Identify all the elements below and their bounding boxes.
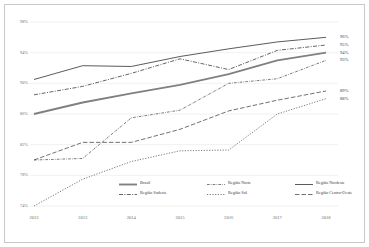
y-axis-tick-label: 94%: [2, 50, 28, 55]
y-axis-tick-label: 74%: [2, 203, 28, 208]
x-axis-tick-label: 2013: [68, 215, 98, 220]
legend-swatch: [206, 192, 226, 197]
series-line: [34, 60, 326, 160]
y-axis-tick-label: 86%: [2, 111, 28, 116]
x-axis-tick-label: 2012: [19, 215, 49, 220]
y-axis-tick-label: 98%: [2, 19, 28, 24]
legend-label: Região Sul: [228, 190, 247, 195]
end-value-label: 94%: [340, 50, 348, 55]
gridlines: [30, 22, 338, 206]
legend-swatch: [294, 192, 314, 197]
x-axis-tick-label: 2015: [165, 215, 195, 220]
y-axis-tick-label: 90%: [2, 80, 28, 85]
end-value-label: 93%: [340, 57, 348, 62]
legend-label: Região Nordeste: [316, 180, 345, 185]
x-axis-tick-label: 2014: [116, 215, 146, 220]
x-axis-tick-label: 2017: [262, 215, 292, 220]
series-line: [34, 91, 326, 160]
end-value-label: 88%: [340, 96, 348, 101]
legend-swatch: [118, 192, 138, 197]
x-axis-tick-label: 2016: [214, 215, 244, 220]
x-axis-tick-label: 2018: [311, 215, 341, 220]
end-value-label: 95%: [340, 42, 348, 47]
legend-swatch: [206, 182, 226, 187]
legend-swatch: [294, 182, 314, 187]
chart-canvas: [0, 0, 369, 247]
legend-label: Região Norte: [228, 180, 251, 185]
legend-label: Brasil: [140, 180, 150, 185]
legend-label: Região Sudeste: [140, 190, 167, 195]
legend-swatch: [118, 182, 138, 187]
chart-figure: 74%78%82%86%90%94%98% 201220132014201520…: [0, 0, 369, 247]
y-axis-tick-label: 82%: [2, 142, 28, 147]
end-value-label: 89%: [340, 88, 348, 93]
y-axis-tick-label: 78%: [2, 172, 28, 177]
chart-legend: BrasilRegião NorteRegião NordesteRegião …: [118, 180, 333, 202]
end-value-label: 96%: [340, 34, 348, 39]
legend-label: Região Centro-Oeste: [316, 190, 352, 195]
